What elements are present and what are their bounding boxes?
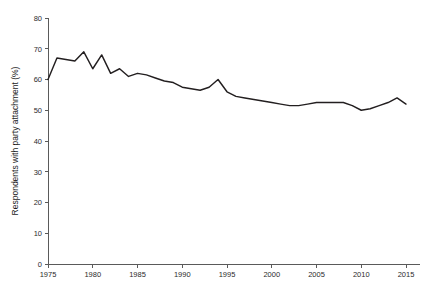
y-tick-label: 50 — [34, 106, 42, 115]
y-tick-label: 10 — [34, 229, 42, 238]
y-tick-label: 80 — [34, 14, 42, 23]
x-tick-label: 2000 — [263, 270, 280, 279]
y-tick-label: 30 — [34, 168, 42, 177]
line-chart: 01020304050607080 1975198019851990199520… — [0, 0, 429, 294]
x-tick-label: 1995 — [219, 270, 236, 279]
chart-canvas: 01020304050607080 1975198019851990199520… — [0, 0, 429, 294]
y-tick-label: 40 — [34, 137, 42, 146]
x-tick-label: 1990 — [174, 270, 191, 279]
x-tick-label: 1980 — [84, 270, 101, 279]
x-tick-label: 2015 — [398, 270, 415, 279]
y-tick-label: 0 — [38, 260, 42, 269]
x-tick-label: 1985 — [129, 270, 146, 279]
chart-background — [0, 0, 429, 294]
y-axis-title: Respondents with party attachment (%) — [10, 66, 20, 215]
y-tick-label: 70 — [34, 45, 42, 54]
x-tick-label: 2010 — [353, 270, 370, 279]
x-tick-label: 1975 — [40, 270, 57, 279]
y-tick-label: 20 — [34, 198, 42, 207]
x-tick-label: 2005 — [308, 270, 325, 279]
y-tick-label: 60 — [34, 75, 42, 84]
